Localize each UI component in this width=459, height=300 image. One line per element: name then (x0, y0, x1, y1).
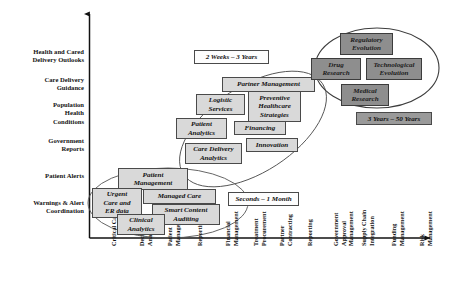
timespan-label-operational: Seconds – 1 Month (228, 192, 299, 206)
diagram-canvas: Health and Cared Delivery Outlooks Care … (0, 0, 459, 300)
capability-box-clinical-analytics[interactable]: Clinical Analytics (117, 214, 165, 235)
timespan-label-tactical: 2 Weeks – 3 Years (194, 50, 269, 64)
y-axis-label-patient-alerts: Patient Alerts (2, 172, 84, 180)
x-axis-label-government-approval-management: Government Approval Management (332, 188, 355, 246)
y-axis-label-warnings-and-alert-coordination: Warnings & Alert Coordination (2, 199, 84, 216)
y-axis-label-health-and-cared-delivery-outlooks: Health and Cared Delivery Outlooks (2, 48, 84, 65)
capability-box-medical-research[interactable]: Medical Research (341, 84, 389, 106)
capability-box-managed-care[interactable]: Managed Care (143, 189, 216, 204)
capability-box-care-delivery-analytics[interactable]: Care Delivery Analytics (185, 143, 242, 164)
x-axis-label-funding-management: Funding Management (390, 188, 405, 246)
y-axis-label-population-health-conditions: Population Health Conditions (2, 101, 84, 126)
capability-box-innovation[interactable]: Innovation (246, 138, 298, 152)
capability-box-partner-management[interactable]: Partner Management (222, 77, 315, 92)
x-axis-label-supply-chain-integration: Supply Chain Integration (360, 188, 375, 246)
capability-box-patient-analytics[interactable]: Patient Analytics (176, 118, 227, 139)
timespan-label-strategic: 3 Years – 50 Years (356, 112, 432, 125)
x-axis-label-reporting-2: Reporting (306, 188, 314, 246)
y-axis-label-care-delivery-guidance: Care Delivery Guidance (2, 76, 84, 93)
y-axis-label-government-reports: Government Reports (2, 137, 84, 154)
capability-box-regulatory-evolution[interactable]: Regulatory Evolution (340, 33, 393, 55)
capability-box-preventive-healthcare-strategies[interactable]: Preventive Healthcare Strategies (248, 91, 301, 122)
x-axis-label-risk-management: Risk Management (418, 188, 433, 246)
capability-box-financing[interactable]: Financing (234, 121, 286, 135)
capability-box-drug-research[interactable]: Drug Research (311, 58, 361, 80)
capability-box-logistic-services[interactable]: Logistic Services (196, 94, 245, 115)
capability-box-patient-management[interactable]: Patient Management (118, 168, 188, 190)
capability-box-technological-evolution[interactable]: Technological Evolution (366, 58, 422, 80)
